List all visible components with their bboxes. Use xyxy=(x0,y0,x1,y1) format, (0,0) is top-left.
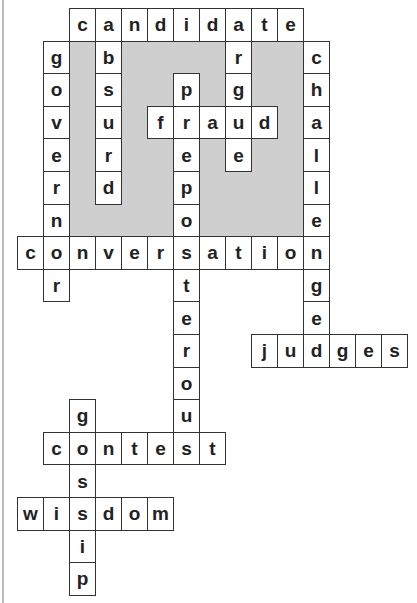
grid-cell[interactable]: n xyxy=(69,236,96,270)
grid-cell[interactable]: g xyxy=(303,269,330,303)
grid-cell[interactable]: s xyxy=(69,497,96,531)
grid-cell[interactable]: s xyxy=(95,73,122,107)
grid-cell[interactable]: d xyxy=(199,8,226,42)
grid-cell[interactable]: d xyxy=(147,8,174,42)
grid-cell[interactable]: r xyxy=(43,269,70,303)
grid-cell[interactable]: v xyxy=(95,236,122,270)
grid-cell[interactable]: e xyxy=(355,334,382,368)
grid-cell[interactable]: r xyxy=(225,41,252,75)
grid-cell[interactable]: e xyxy=(173,138,200,172)
grid-cell[interactable]: e xyxy=(303,204,330,238)
grid-cell[interactable]: o xyxy=(69,432,96,466)
grid-cell[interactable]: i xyxy=(173,8,200,42)
grid-cell[interactable]: u xyxy=(277,334,304,368)
grid-cell[interactable]: r xyxy=(95,138,122,172)
grid-cell[interactable]: r xyxy=(43,171,70,205)
grid-cell[interactable]: o xyxy=(121,497,148,531)
grid-cell[interactable]: l xyxy=(303,138,330,172)
grid-cell[interactable]: c xyxy=(69,8,96,42)
grid-cell[interactable]: e xyxy=(173,301,200,335)
crossword-grid: candidatefraudconversationjudgescontestw… xyxy=(0,0,417,603)
grid-cell[interactable]: u xyxy=(173,399,200,433)
grid-cell[interactable]: r xyxy=(173,334,200,368)
grid-cell[interactable]: p xyxy=(69,562,96,596)
grid-cell[interactable]: o xyxy=(43,236,70,270)
grid-cell[interactable]: g xyxy=(43,41,70,75)
grid-cell[interactable]: m xyxy=(147,497,174,531)
grid-cell[interactable]: n xyxy=(95,432,122,466)
grid-cell[interactable]: i xyxy=(43,497,70,531)
grid-cell[interactable]: u xyxy=(225,106,252,140)
grid-cell[interactable]: d xyxy=(303,334,330,368)
grid-cell[interactable]: o xyxy=(173,367,200,401)
grid-cell[interactable]: s xyxy=(173,236,200,270)
grid-cell[interactable]: d xyxy=(251,106,278,140)
grid-cell[interactable]: e xyxy=(147,432,174,466)
grid-cell[interactable]: s xyxy=(381,334,408,368)
grid-cell[interactable]: e xyxy=(303,301,330,335)
grid-cell[interactable]: o xyxy=(277,236,304,270)
grid-cell[interactable]: n xyxy=(303,236,330,270)
grid-cell[interactable]: j xyxy=(251,334,278,368)
grid-cell[interactable]: g xyxy=(225,73,252,107)
grid-cell[interactable]: r xyxy=(173,106,200,140)
grid-cell[interactable]: g xyxy=(69,399,96,433)
grid-cell[interactable]: p xyxy=(173,73,200,107)
grid-cell[interactable]: a xyxy=(199,236,226,270)
grid-cell[interactable]: a xyxy=(225,8,252,42)
grid-cell[interactable]: d xyxy=(95,497,122,531)
grid-cell[interactable]: s xyxy=(173,432,200,466)
grid-cell[interactable]: i xyxy=(251,236,278,270)
grid-cell[interactable]: u xyxy=(95,106,122,140)
grid-cell[interactable]: l xyxy=(303,171,330,205)
grid-cell[interactable]: a xyxy=(95,8,122,42)
grid-cell[interactable]: e xyxy=(277,8,304,42)
grid-cell[interactable]: p xyxy=(173,171,200,205)
grid-cell[interactable]: t xyxy=(225,236,252,270)
grid-cell[interactable]: h xyxy=(303,73,330,107)
grid-cell[interactable]: g xyxy=(329,334,356,368)
grid-cell[interactable]: f xyxy=(147,106,174,140)
grid-cell[interactable]: t xyxy=(199,432,226,466)
grid-cell[interactable]: e xyxy=(225,138,252,172)
grid-cell[interactable]: s xyxy=(69,464,96,498)
grid-cell[interactable]: t xyxy=(251,8,278,42)
grid-cell[interactable]: o xyxy=(43,73,70,107)
grid-cell[interactable]: i xyxy=(69,530,96,564)
grid-cell[interactable]: b xyxy=(95,41,122,75)
grid-cell[interactable]: r xyxy=(147,236,174,270)
grid-cell[interactable]: e xyxy=(121,236,148,270)
grid-cell[interactable]: w xyxy=(17,497,44,531)
grid-cell[interactable]: e xyxy=(43,138,70,172)
grid-cell[interactable]: n xyxy=(121,8,148,42)
grid-cell[interactable]: c xyxy=(303,41,330,75)
grid-cell[interactable]: o xyxy=(173,204,200,238)
grid-cell[interactable]: t xyxy=(121,432,148,466)
grid-cell[interactable]: n xyxy=(43,204,70,238)
grid-cell[interactable]: v xyxy=(43,106,70,140)
grid-cell[interactable]: c xyxy=(17,236,44,270)
grid-cell[interactable]: c xyxy=(43,432,70,466)
grid-cell[interactable]: d xyxy=(95,171,122,205)
grid-cell[interactable]: t xyxy=(173,269,200,303)
grid-cell[interactable]: a xyxy=(303,106,330,140)
grid-cell[interactable]: a xyxy=(199,106,226,140)
